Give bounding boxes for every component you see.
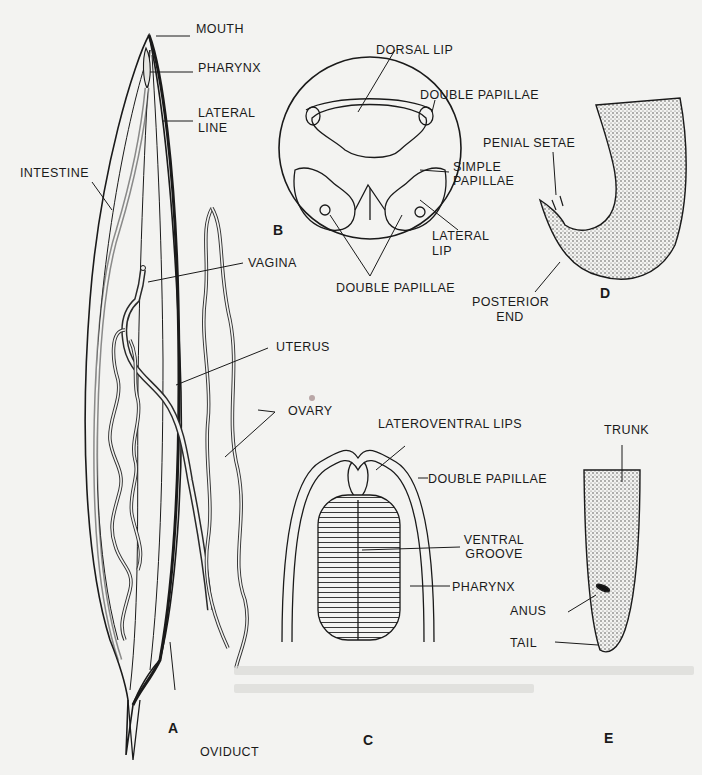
label-ventral-groove-2: GROOVE <box>462 547 526 561</box>
label-lateral-line-2: LINE <box>198 121 227 135</box>
show-through-line <box>234 666 694 675</box>
panel-letter-a: A <box>168 720 178 736</box>
label-posterior-end-1: POSTERIOR <box>472 295 548 309</box>
nematode-anatomy-figure <box>0 0 702 775</box>
label-lateral-lip-1: LATERAL <box>432 229 489 243</box>
panel-d-male-tail <box>535 98 686 292</box>
panel-a-worm <box>85 35 275 760</box>
label-simple-papillae-2: PAPILLAE <box>453 174 514 188</box>
label-simple-papillae-1: SIMPLE <box>453 160 501 174</box>
label-vagina: VAGINA <box>248 256 297 270</box>
show-through-line <box>234 684 534 693</box>
paper-speck <box>309 395 315 401</box>
label-double-papillae-c: DOUBLE PAPILLAE <box>428 472 547 486</box>
label-double-papillae-bottom: DOUBLE PAPILLAE <box>336 281 455 295</box>
panel-letter-e: E <box>604 730 613 746</box>
label-oviduct: OVIDUCT <box>200 745 259 759</box>
panel-letter-b: B <box>273 222 283 238</box>
label-uterus: UTERUS <box>276 340 330 354</box>
label-tail: TAIL <box>510 636 537 650</box>
label-dorsal-lip: DORSAL LIP <box>376 43 453 57</box>
label-penial-setae: PENIAL SETAE <box>483 136 575 150</box>
label-intestine: INTESTINE <box>20 166 89 180</box>
panel-e-female-tail <box>555 445 640 652</box>
label-pharynx-c: PHARYNX <box>452 580 515 594</box>
label-trunk: TRUNK <box>604 423 649 437</box>
label-ventral-groove-1: VENTRAL <box>462 533 526 547</box>
label-posterior-end-2: END <box>472 310 548 324</box>
label-lateral-line-1: LATERAL <box>198 106 255 120</box>
label-anus: ANUS <box>510 604 546 618</box>
label-double-papillae-top: DOUBLE PAPILLAE <box>420 88 539 102</box>
panel-letter-d: D <box>600 285 610 301</box>
label-mouth: MOUTH <box>196 22 244 36</box>
label-pharynx-a: PHARYNX <box>198 61 261 75</box>
label-ovary: OVARY <box>288 404 333 418</box>
panel-letter-c: C <box>363 732 373 748</box>
label-lateral-lip-2: LIP <box>432 244 452 258</box>
label-lateroventral-lips: LATEROVENTRAL LIPS <box>378 417 522 431</box>
